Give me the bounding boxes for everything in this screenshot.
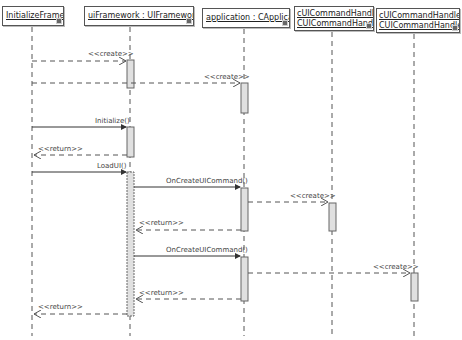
activation-uiframework-initialize bbox=[127, 127, 134, 157]
activation-uiframework-loadui bbox=[127, 172, 134, 316]
activation-application-oncreate2 bbox=[241, 257, 248, 301]
message-label: <<create>> bbox=[204, 73, 250, 81]
message-label: <<create>> bbox=[290, 192, 336, 200]
message-label: <<return>> bbox=[139, 289, 184, 297]
message-label: <<return>> bbox=[38, 303, 83, 311]
sequence-diagram-canvas bbox=[0, 0, 462, 340]
message-label: OnCreateUICommand() bbox=[166, 177, 248, 185]
message-label: <<return>> bbox=[139, 219, 184, 227]
message-label: Initialize() bbox=[95, 117, 130, 125]
message-label: <<create>> bbox=[373, 263, 419, 271]
message-label: LoadUI() bbox=[97, 162, 126, 170]
activation-uiframework-create bbox=[127, 60, 134, 88]
message-label: <<create>> bbox=[88, 50, 134, 58]
message-label: OnCreateUICommand() bbox=[166, 246, 248, 254]
activation-application-oncreate1 bbox=[241, 188, 248, 231]
activation-handler1 bbox=[411, 273, 418, 301]
activation-handler0 bbox=[329, 203, 336, 231]
message-label: <<return>> bbox=[38, 145, 83, 153]
activation-application-create bbox=[241, 83, 248, 113]
